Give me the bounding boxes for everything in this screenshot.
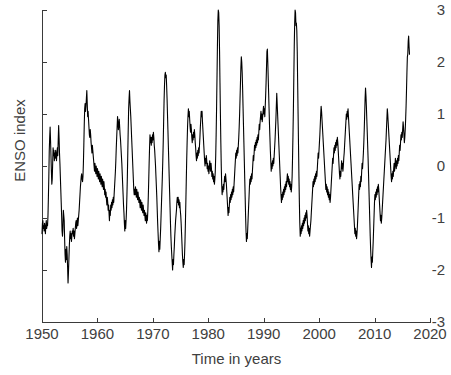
y-axis-label: ENSO index — [11, 86, 28, 196]
y-tick-label: -2 — [411, 262, 445, 277]
x-tick-label: 1990 — [234, 326, 294, 341]
x-tick-mark — [153, 318, 154, 323]
x-tick-label: 2010 — [345, 326, 405, 341]
y-tick-mark — [42, 10, 47, 11]
x-tick-mark — [264, 318, 265, 323]
y-tick-label: 0 — [411, 158, 445, 173]
y-tick-mark — [42, 166, 47, 167]
y-tick-label: -1 — [411, 210, 445, 225]
y-tick-mark — [42, 218, 47, 219]
y-tick-label: 3 — [411, 2, 445, 17]
x-tick-mark — [208, 318, 209, 323]
x-tick-label: 1970 — [123, 326, 183, 341]
y-tick-label: 2 — [411, 54, 445, 69]
x-tick-mark — [97, 318, 98, 323]
plot-area — [42, 10, 430, 322]
x-tick-label: 1950 — [12, 326, 72, 341]
y-tick-label: 1 — [411, 106, 445, 121]
x-tick-label: 2020 — [400, 326, 451, 341]
y-tick-mark — [42, 270, 47, 271]
x-tick-mark — [319, 318, 320, 323]
y-tick-mark — [42, 62, 47, 63]
x-tick-label: 1960 — [67, 326, 127, 341]
x-tick-mark — [42, 318, 43, 323]
x-tick-mark — [375, 318, 376, 323]
x-axis-label: Time in years — [42, 350, 431, 367]
x-tick-mark — [430, 318, 431, 323]
x-axis-line — [42, 322, 431, 323]
x-tick-label: 2000 — [289, 326, 349, 341]
y-tick-mark — [42, 114, 47, 115]
x-tick-label: 1980 — [178, 326, 238, 341]
